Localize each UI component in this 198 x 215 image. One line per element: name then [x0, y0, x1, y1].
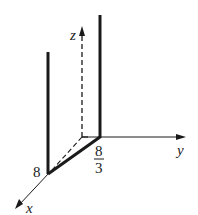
x-intercept-label: 8 [33, 164, 41, 180]
x-axis-arrow-icon [15, 199, 23, 209]
y-label: y [175, 142, 184, 158]
x-label: x [25, 200, 33, 215]
trace-line [48, 137, 100, 174]
y-intercept-denominator: 3 [95, 160, 103, 176]
y-intercept-numerator: 8 [95, 143, 103, 159]
z-label: z [69, 27, 76, 43]
z-axis-arrow-icon [79, 26, 85, 36]
coordinate-diagram: z y x 8 8 3 [0, 0, 198, 215]
y-axis-arrow-icon [176, 134, 186, 140]
